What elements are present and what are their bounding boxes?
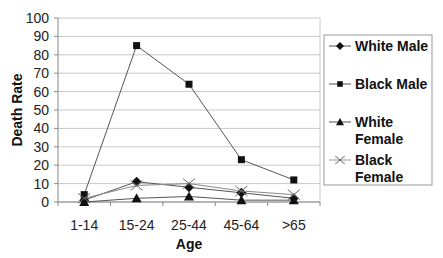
y-tick-label: 70 <box>33 65 49 81</box>
legend: White MaleBlack MaleWhiteFemaleBlackFema… <box>324 35 432 185</box>
triangle-marker <box>184 191 194 200</box>
series-line <box>84 46 294 195</box>
legend-label: White <box>355 114 393 130</box>
series-white-female <box>79 191 299 206</box>
legend-label-line2: Female <box>355 169 403 185</box>
x-axis-title: Age <box>176 236 203 252</box>
y-tick-label: 10 <box>33 176 49 192</box>
square-marker <box>337 81 343 87</box>
x-tick-label: 25-44 <box>171 217 207 233</box>
y-axis-title: Death Rate <box>9 73 25 146</box>
x-tick-label: 45-64 <box>223 217 259 233</box>
y-tick-label: 40 <box>33 120 49 136</box>
square-marker <box>186 81 193 88</box>
y-tick-label: 80 <box>33 47 49 63</box>
x-tick-label: 15-24 <box>119 217 155 233</box>
y-tick-label: 0 <box>41 194 49 210</box>
y-tick-label: 20 <box>33 157 49 173</box>
y-tick-label: 90 <box>33 28 49 44</box>
legend-label-line2: Female <box>355 131 403 147</box>
y-tick-label: 50 <box>33 102 49 118</box>
square-marker <box>133 42 140 49</box>
square-marker <box>238 156 245 163</box>
legend-label: White Male <box>355 38 428 54</box>
line-chart: 01020304050607080901001-1415-2425-4445-6… <box>0 0 443 258</box>
series-black-male <box>81 42 298 198</box>
legend-label: Black Male <box>355 76 428 92</box>
square-marker <box>290 176 297 183</box>
chart-container: 01020304050607080901001-1415-2425-4445-6… <box>0 0 443 258</box>
x-tick-label: >65 <box>282 217 306 233</box>
y-tick-label: 100 <box>26 10 50 26</box>
y-tick-label: 30 <box>33 139 49 155</box>
legend-label: Black <box>355 152 393 168</box>
x-tick-label: 1-14 <box>70 217 98 233</box>
y-tick-label: 60 <box>33 84 49 100</box>
